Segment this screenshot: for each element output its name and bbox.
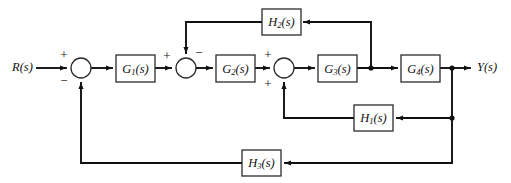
block-diagram-canvas: + − + − + + G1(s) G2(s) G3(s) G4( xyxy=(0,0,511,183)
block-label-H3-arg: (s) xyxy=(262,156,275,170)
block-G1[interactable]: G1(s) xyxy=(116,55,155,82)
block-label-H1-arg: (s) xyxy=(374,111,387,125)
block-label-G4: G4(s) xyxy=(407,61,434,76)
block-label-G1-base: G xyxy=(122,61,131,75)
summing-junction-circle xyxy=(71,58,91,78)
block-label-H1: H1(s) xyxy=(359,111,387,126)
sum2-sign-plus: + xyxy=(163,48,170,63)
block-label-G4-arg: (s) xyxy=(421,61,434,75)
output-label-Ys: Y(s) xyxy=(477,60,497,74)
block-G3[interactable]: G3(s) xyxy=(318,55,357,82)
block-label-G3-base: G xyxy=(324,61,333,75)
sum1-sign-plus: + xyxy=(60,47,67,62)
block-G4[interactable]: G4(s) xyxy=(401,55,440,82)
summing-junction-circle xyxy=(176,58,196,78)
block-label-G3: G3(s) xyxy=(324,61,351,76)
block-label-G2: G2(s) xyxy=(222,61,249,76)
sum2-sign-minus: − xyxy=(195,45,202,60)
block-label-G1: G1(s) xyxy=(122,61,149,76)
block-label-G2-arg: (s) xyxy=(236,61,249,75)
sum1-sign-minus: − xyxy=(60,73,67,88)
junction-dot-after-G4 xyxy=(449,65,454,70)
sum3-sign-plus-top: + xyxy=(264,47,271,62)
block-G2[interactable]: G2(s) xyxy=(216,55,255,82)
block-label-H2: H2(s) xyxy=(267,15,295,30)
wire-H1-to-sum3 xyxy=(284,83,354,118)
junction-dot-H1-tap xyxy=(449,115,454,120)
block-label-G1-arg: (s) xyxy=(136,61,149,75)
summing-junction-sum2[interactable]: + − xyxy=(163,45,202,78)
block-H2[interactable]: H2(s) xyxy=(262,9,301,35)
sum3-sign-plus-bottom: + xyxy=(264,76,271,91)
block-H1[interactable]: H1(s) xyxy=(354,105,393,131)
block-label-H3: H3(s) xyxy=(247,156,275,171)
block-diagram-svg: + − + − + + G1(s) G2(s) G3(s) G4( xyxy=(0,0,511,183)
wire-H3-to-sum1 xyxy=(81,83,242,163)
block-label-H2-arg: (s) xyxy=(282,15,295,29)
block-H3[interactable]: H3(s) xyxy=(242,150,281,176)
block-label-G4-base: G xyxy=(407,61,416,75)
summing-junction-sum3[interactable]: + + xyxy=(264,47,294,91)
block-label-G3-arg: (s) xyxy=(338,61,351,75)
input-label-Rs: R(s) xyxy=(11,60,33,74)
junction-dot-after-G3 xyxy=(368,65,373,70)
block-label-G2-base: G xyxy=(222,61,231,75)
summing-junction-circle xyxy=(274,58,294,78)
